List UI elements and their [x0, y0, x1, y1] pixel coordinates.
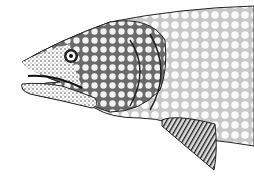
fish-illustration [0, 0, 254, 189]
pectoral-fin [162, 118, 216, 170]
fish-pupil [69, 54, 73, 58]
fish-head-drawing [0, 0, 254, 189]
